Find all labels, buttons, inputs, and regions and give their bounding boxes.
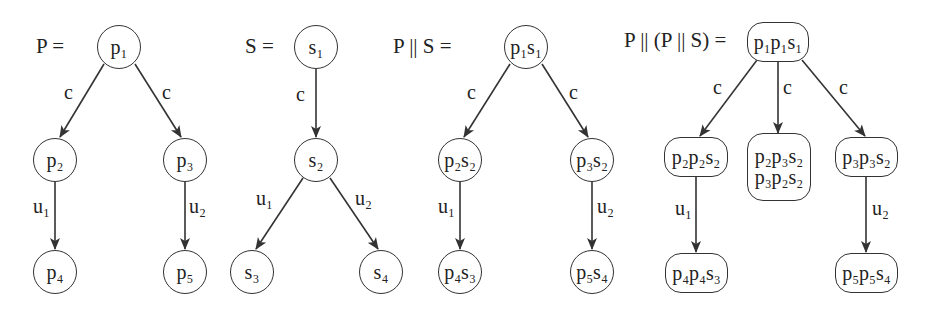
node-merged: p₂p₃s₂ p₃p₂s₂ xyxy=(747,133,811,201)
title-p: P = xyxy=(36,36,64,57)
edge-label-u2: u₂ xyxy=(355,188,372,208)
node-p4: p₄ xyxy=(33,250,77,294)
node-p3p3s2: p₃p₃s₂ xyxy=(835,137,898,177)
node-p3: p₃ xyxy=(163,138,207,182)
node-p2s2: p₂s₂ xyxy=(438,138,482,182)
edge-label-c: c xyxy=(64,82,73,102)
edge-label-u2: u₂ xyxy=(597,196,614,216)
node-p2p2s2: p₂p₂s₂ xyxy=(664,137,728,177)
node-s1: s₁ xyxy=(294,25,338,69)
edge-label-u1: u₁ xyxy=(438,196,455,216)
node-p5p5s4: p₅p₅s₄ xyxy=(835,253,898,293)
node-p4p4s3: p₄p₄s₃ xyxy=(665,253,728,293)
edge-label-u1: u₁ xyxy=(675,198,692,218)
node-p1: p₁ xyxy=(97,25,141,69)
title-s: S = xyxy=(245,36,274,57)
node-p3s2: p₃s₂ xyxy=(570,138,614,182)
node-s2: s₂ xyxy=(294,138,338,182)
edge-label-u2: u₂ xyxy=(189,196,206,216)
edge-label-c: c xyxy=(162,82,171,102)
edge-p1s1-p3s2 xyxy=(542,64,588,137)
node-p1p1s1: p₁p₁s₁ xyxy=(747,22,809,62)
edge-label-c: c xyxy=(783,77,792,97)
edge-label-c: c xyxy=(713,77,722,97)
node-s4: s₄ xyxy=(359,250,403,294)
edge-top-left xyxy=(700,60,757,136)
node-s3: s₃ xyxy=(230,250,274,294)
node-p5s4: p₅s₄ xyxy=(570,250,614,294)
merged-line-1: p₂p₃s₂ xyxy=(755,146,804,167)
edge-label-c: c xyxy=(467,82,476,102)
node-p5: p₅ xyxy=(163,250,207,294)
title-p-par-s: P || S = xyxy=(393,36,452,57)
title-p-par-p-par-s: P || (P || S) = xyxy=(624,30,726,51)
node-p1s1: p₁s₁ xyxy=(504,25,548,69)
merged-line-2: p₃p₂s₂ xyxy=(755,167,804,188)
edge-label-u2: u₂ xyxy=(872,198,889,218)
edge-top-right xyxy=(802,60,865,136)
edge-label-u1: u₁ xyxy=(256,188,273,208)
edge-p1-p3 xyxy=(135,64,181,137)
node-p4s3: p₄s₃ xyxy=(438,250,482,294)
edge-label-u1: u₁ xyxy=(33,196,50,216)
edge-label-c: c xyxy=(569,82,578,102)
edge-label-c: c xyxy=(296,84,305,104)
node-p2: p₂ xyxy=(33,138,77,182)
edge-label-c: c xyxy=(839,77,848,97)
